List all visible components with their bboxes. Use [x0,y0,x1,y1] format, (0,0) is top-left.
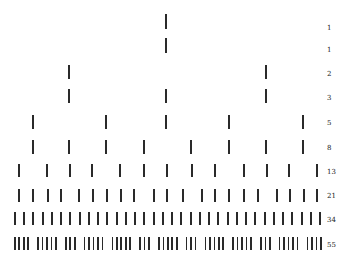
tick-bar [254,212,256,225]
tick-bar [205,237,207,250]
tick-bar [153,189,155,202]
tick-bar [166,164,168,177]
tick-bar [182,189,184,202]
tick-bar [214,189,216,202]
tick-bar [297,237,299,250]
tick-bar [60,212,62,225]
tick-bar [165,115,167,129]
tick-bar [209,237,211,250]
tick-bar [241,237,243,250]
tick-bar [14,237,16,250]
tick-bar [133,189,135,202]
tick-bar [153,212,155,225]
tick-bar [191,164,193,177]
tick-bar [310,212,312,225]
tick-bar [32,189,34,202]
tick-bar [14,212,16,225]
tick-bar [92,189,94,202]
tick-bar [162,212,164,225]
tick-bar [65,237,67,250]
tick-bar [302,115,304,129]
tick-bar [265,65,267,79]
tick-bar [129,237,131,250]
tick-bar [69,212,71,225]
row-count-label: 2 [327,70,331,78]
tick-bar [144,237,146,250]
tick-bar [68,140,70,154]
tick-bar [23,212,25,225]
tick-bar [311,237,313,250]
tick-bar [32,140,34,154]
tick-bar [120,189,122,202]
tick-bar [91,164,93,177]
tick-bar [265,89,267,103]
tick-bar [69,164,71,177]
tick-bar [119,164,121,177]
tick-bar [316,237,318,250]
tick-bar [243,189,245,202]
tick-bar [116,237,118,250]
tick-bar [32,212,34,225]
tick-bar [265,140,267,154]
tick-bar [69,237,71,250]
tick-bar [27,237,29,250]
tick-bar [288,237,290,250]
tick-bar [112,237,114,250]
tick-bar [176,237,178,250]
tick-bar [257,189,259,202]
tick-bar [283,237,285,250]
tick-bar [291,212,293,225]
tick-bar [143,164,145,177]
tick-bar [273,212,275,225]
tick-bar [18,189,20,202]
tick-bar [102,237,104,250]
tick-bar [97,237,99,250]
tick-bar [60,189,62,202]
tick-bar [93,237,95,250]
tick-bar [292,237,294,250]
tick-bar [208,212,210,225]
row-count-label: 8 [327,144,331,152]
tick-bar [42,212,44,225]
tick-bar [23,237,25,250]
tick-bar [125,212,127,225]
tick-bar [301,212,303,225]
tick-bar [320,237,322,250]
tick-bar [143,212,145,225]
tick-bar [190,237,192,250]
tick-bar [68,65,70,79]
tick-bar [84,237,86,250]
tick-bar [279,237,281,250]
row-count-label: 5 [327,119,331,127]
tick-bar [218,237,220,250]
tick-bar [167,237,169,250]
tick-bar [106,212,108,225]
tick-bar [288,164,290,177]
tick-bar [201,189,203,202]
tick-bar [228,140,230,154]
tick-bar [68,89,70,103]
tick-bar [214,237,216,250]
tick-bar [303,189,305,202]
tick-bar [125,237,127,250]
tick-bar [186,237,188,250]
tick-bar [134,212,136,225]
row-count-label: 1 [327,24,331,32]
tick-bar [51,237,53,250]
tick-bar [32,115,34,129]
tick-bar [237,237,239,250]
tick-bar [316,164,318,177]
fibonacci-bar-diagram: 11235813213455 [0,0,351,266]
tick-bar [180,212,182,225]
row-count-label: 21 [327,192,336,200]
tick-bar [171,237,173,250]
tick-bar [105,140,107,154]
tick-bar [163,237,165,250]
tick-bar [165,89,167,103]
tick-bar [307,237,309,250]
tick-bar [227,212,229,225]
tick-bar [47,189,49,202]
tick-bar [222,237,224,250]
tick-bar [265,237,267,250]
tick-bar [302,140,304,154]
